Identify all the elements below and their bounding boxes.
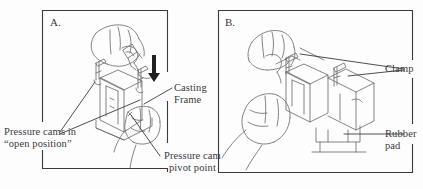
callout-pressure-cams-line2: “open position” (4, 138, 76, 150)
panel-letter-b: B. (225, 16, 235, 28)
callout-rubber-pad-line1: Rubber (385, 128, 417, 139)
leader-casting-frame (144, 88, 172, 104)
callout-clamp-line1: Clamp (385, 63, 414, 74)
callout-casting-frame-line2: Frame (174, 94, 207, 106)
callout-pivot-point: Pressure cam pivot point (164, 150, 221, 173)
figure-container: A. B. Pressure cams in “open position” C… (0, 0, 423, 189)
leader-pivot-point (131, 115, 160, 156)
panel-letter-a: A. (50, 16, 61, 28)
callout-rubber-pad: Rubber pad (385, 128, 417, 151)
callout-casting-frame-line1: Casting (174, 82, 207, 93)
callout-pressure-cams: Pressure cams in “open position” (4, 126, 76, 149)
callout-pressure-cams-line1: Pressure cams in (4, 126, 76, 137)
callout-pivot-point-line1: Pressure cam (164, 150, 221, 161)
callout-clamp: Clamp (385, 63, 414, 75)
leader-pressure-cams-upper (60, 82, 95, 132)
callout-rubber-pad-line2: pad (385, 140, 417, 152)
callout-pivot-point-line2: pivot point (164, 162, 221, 174)
callout-casting-frame: Casting Frame (174, 82, 207, 105)
